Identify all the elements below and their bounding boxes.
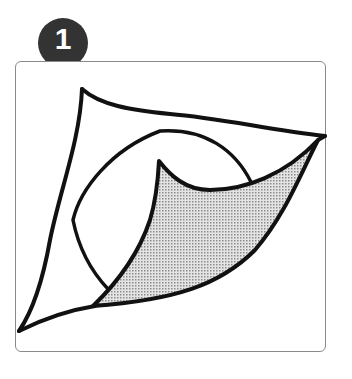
outer-leaf-left-edge [19,89,82,331]
curl-shaded-region [93,140,318,306]
curl-illustration [0,0,352,379]
outer-leaf-outline [82,89,325,136]
